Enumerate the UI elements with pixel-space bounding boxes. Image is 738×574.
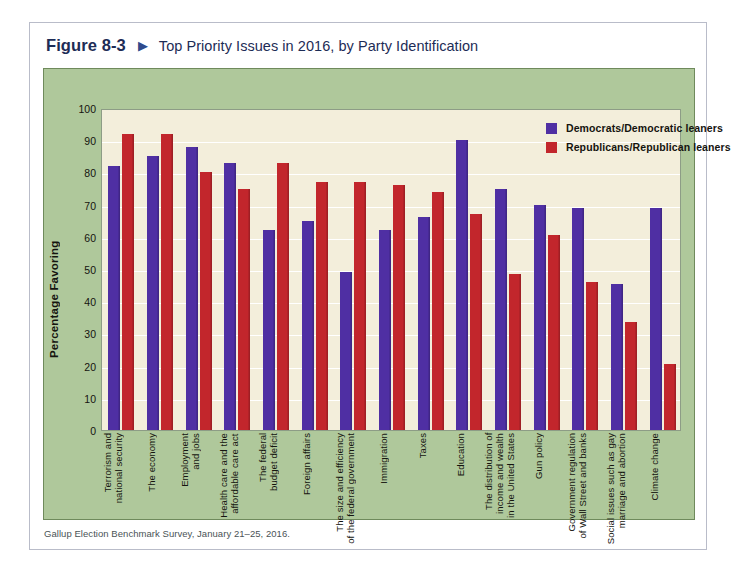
bar-democrats — [302, 221, 314, 430]
bar-group — [340, 110, 366, 430]
y-axis-tick-0: 0 — [66, 425, 96, 437]
bar-democrats — [611, 284, 623, 431]
bar-democrats — [650, 208, 662, 430]
bar-republicans — [548, 235, 560, 430]
legend-swatch-republicans — [546, 142, 557, 153]
bar-republicans — [664, 364, 676, 430]
y-axis-tick-80: 80 — [66, 167, 96, 179]
x-axis-label: Gun policy — [533, 433, 544, 479]
x-axis-label: Education — [455, 433, 466, 476]
x-axis-label: The federal budget deficit — [257, 433, 279, 491]
bar-democrats — [263, 230, 275, 430]
legend-swatch-democrats — [546, 123, 557, 134]
bar-democrats — [379, 230, 391, 430]
figure-card: Figure 8-3 ▶ Top Priority Issues in 2016… — [29, 22, 707, 550]
x-axis-label: Immigration — [378, 433, 389, 484]
bar-republicans — [277, 163, 289, 430]
bar-democrats — [456, 140, 468, 430]
y-axis-tick-labels: 0102030405060708090100 — [66, 109, 96, 431]
x-axis-label: Government regulation of Wall Street and… — [566, 433, 588, 539]
x-axis-label: Employment and jobs — [179, 433, 201, 487]
y-axis-tick-90: 90 — [66, 135, 96, 147]
x-axis-label: Foreign affairs — [301, 433, 312, 495]
chart-legend: Democrats/Democratic leaners Republicans… — [546, 122, 731, 160]
bar-democrats — [186, 147, 198, 430]
y-axis-tick-40: 40 — [66, 296, 96, 308]
bar-republicans — [470, 214, 482, 430]
legend-label-republicans: Republicans/Republican leaners — [566, 141, 731, 153]
x-axis-label: The size and efficiency of the federal g… — [334, 433, 356, 544]
y-axis-tick-70: 70 — [66, 200, 96, 212]
bar-democrats — [108, 166, 120, 430]
y-axis-tick-10: 10 — [66, 393, 96, 405]
triangle-right-icon: ▶ — [138, 39, 148, 52]
bar-democrats — [495, 189, 507, 431]
bar-group — [379, 110, 405, 430]
bar-group — [495, 110, 521, 430]
bar-group — [186, 110, 212, 430]
legend-item-republicans: Republicans/Republican leaners — [546, 141, 731, 153]
bar-democrats — [340, 272, 352, 430]
bar-republicans — [586, 282, 598, 430]
bar-republicans — [432, 192, 444, 430]
bar-group — [302, 110, 328, 430]
y-axis-tick-100: 100 — [66, 103, 96, 115]
bar-democrats — [572, 208, 584, 430]
bar-democrats — [418, 217, 430, 430]
bar-group — [147, 110, 173, 430]
bar-republicans — [316, 182, 328, 430]
chart-panel: Percentage Favoring 01020304050607080901… — [43, 68, 695, 520]
x-axis-label: Social issues such as gay marriage and a… — [605, 433, 627, 544]
legend-item-democrats: Democrats/Democratic leaners — [546, 122, 731, 134]
bar-republicans — [354, 182, 366, 430]
bar-republicans — [200, 172, 212, 430]
bar-republicans — [238, 189, 250, 431]
bar-republicans — [393, 185, 405, 430]
bar-republicans — [509, 274, 521, 430]
figure-number: Figure 8-3 — [46, 36, 126, 55]
x-axis-label: Taxes — [417, 433, 428, 458]
figure-title: Top Priority Issues in 2016, by Party Id… — [159, 38, 478, 54]
plot-area: Democrats/Democratic leaners Republicans… — [101, 109, 681, 431]
x-axis-label: The distribution of income and wealth in… — [483, 433, 516, 518]
bar-republicans — [625, 322, 637, 430]
bar-republicans — [161, 134, 173, 430]
bar-group — [224, 110, 250, 430]
bar-democrats — [534, 205, 546, 430]
figure-header: Figure 8-3 ▶ Top Priority Issues in 2016… — [30, 23, 706, 68]
bar-group — [456, 110, 482, 430]
y-axis-tick-20: 20 — [66, 361, 96, 373]
bar-democrats — [224, 163, 236, 430]
bar-republicans — [122, 134, 134, 430]
y-axis-title: Percentage Favoring — [48, 199, 66, 399]
source-note: Gallup Election Benchmark Survey, Januar… — [44, 528, 290, 539]
y-axis-tick-60: 60 — [66, 232, 96, 244]
bar-group — [263, 110, 289, 430]
y-axis-tick-30: 30 — [66, 328, 96, 340]
x-axis-label: The economy — [146, 433, 157, 492]
x-axis-label: Terrorism and national security — [102, 433, 124, 503]
x-axis-label: Climate change — [649, 433, 660, 500]
bar-group — [418, 110, 444, 430]
bar-group — [108, 110, 134, 430]
bar-democrats — [147, 156, 159, 430]
x-axis-label: Health care and the affordable care act — [218, 433, 240, 518]
y-axis-tick-50: 50 — [66, 264, 96, 276]
legend-label-democrats: Democrats/Democratic leaners — [566, 122, 723, 134]
